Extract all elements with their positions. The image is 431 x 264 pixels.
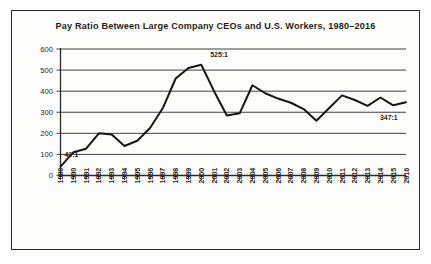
- y-axis-tick-label: 0: [49, 171, 53, 180]
- y-axis-tick-label: 300: [40, 108, 53, 117]
- line-chart-plot: 0100200300400500600 19801990199119921993…: [12, 11, 421, 251]
- y-axis-tick-labels-group: 0100200300400500600: [40, 45, 53, 181]
- data-annotation-label: 42:1: [65, 151, 79, 158]
- y-axis-tick-label: 400: [40, 87, 53, 96]
- y-axis-tick-label: 500: [40, 66, 53, 75]
- y-axis-tick-label: 100: [40, 150, 53, 159]
- chart-figure: Pay Ratio Between Large Company CEOs and…: [11, 10, 420, 250]
- pay-ratio-data-line: [61, 65, 407, 167]
- gridlines-group: [61, 49, 407, 154]
- y-axis-tick-label: 200: [40, 129, 53, 138]
- data-annotation-label: 347:1: [380, 114, 398, 121]
- data-annotation-label: 525:1: [210, 51, 228, 58]
- y-axis-tick-label: 600: [40, 45, 53, 54]
- data-annotations-group: 42:1525:1347:1: [65, 51, 398, 158]
